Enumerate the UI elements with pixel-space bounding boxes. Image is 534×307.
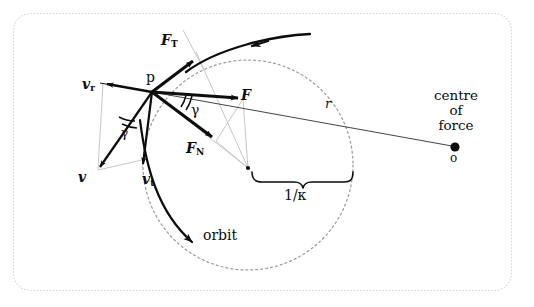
label-force-tangential: FT [161,33,178,48]
curvature-brace [252,172,353,188]
force-tangential-vector[interactable] [152,61,193,92]
centre-of-force-line-2: of [424,103,488,118]
label-point-p: p [146,70,155,85]
label-force-total: F [241,88,251,103]
figure-container: FT F FN vr v vt p γ γ r 1/κ orbit centre… [0,0,534,307]
label-radius-r: r [325,97,331,111]
centre-of-force-line-1: centre [424,88,488,103]
label-velocity-total: v [78,170,86,185]
velocity-radial-vector[interactable] [107,84,152,92]
label-curvature-radius: 1/κ [284,188,306,203]
label-orbit: orbit [203,228,237,243]
force-total-vector[interactable] [152,92,238,98]
figure-border [14,14,512,291]
force-normal-vector[interactable] [152,92,212,137]
centre-of-force-line-3: force [424,118,488,133]
radius-line [152,92,452,146]
label-velocity-radial: vr [82,77,95,92]
osculating-centre-dot [246,166,250,170]
label-velocity-tangential: vt [142,172,154,187]
label-centre-of-force: centre of force [424,88,488,133]
orbit-curve [186,34,310,72]
label-angle-gamma-upper: γ [191,103,199,118]
label-force-normal: FN [186,141,204,156]
label-centre-of-force-point: o [450,152,457,165]
label-angle-gamma-lower: γ [121,127,128,140]
